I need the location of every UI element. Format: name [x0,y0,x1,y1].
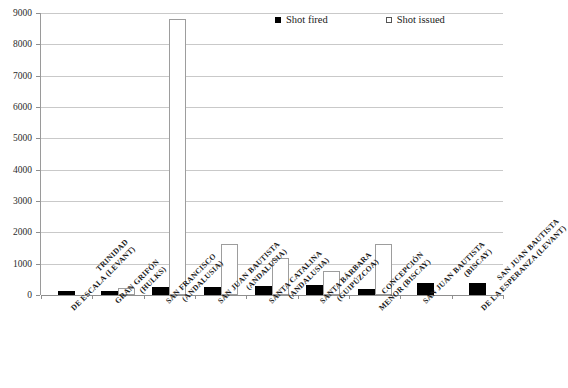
legend-label: Shot issued [397,14,445,25]
y-axis-tick-mark [36,138,40,139]
y-axis-tick-mark [36,264,40,265]
bar-shot-fired [204,287,221,295]
y-axis-tick-label: 9000 [13,8,32,18]
y-axis-tick-label: 0 [27,290,32,300]
x-axis-tick-mark [503,295,504,299]
bar-group [298,13,349,295]
y-axis-labels: 0100020003000400050006000700080009000 [0,13,36,295]
y-axis-tick-mark [36,295,40,296]
y-axis-tick-mark [36,170,40,171]
x-axis-labels: TRINIDADDE ESCALA (Levant)GRAN GRIFÓN(Hu… [40,299,502,388]
bar-group [400,13,451,295]
open-square-icon [386,17,392,23]
y-axis-tick-label: 6000 [13,102,32,112]
y-axis-tick-mark [36,76,40,77]
y-axis-tick-label: 3000 [13,196,32,206]
y-axis-tick-label: 5000 [13,133,32,143]
y-axis-tick-mark [36,232,40,233]
y-axis-tick-label: 1000 [13,259,32,269]
y-axis-tick-mark [36,13,40,14]
legend-item-shot-fired: Shot fired [275,14,328,25]
bar-shot-fired [255,286,272,295]
bar-shot-issued [169,19,186,295]
bar-shot-fired [101,291,118,295]
bar-group [349,13,400,295]
chart-legend: Shot firedShot issued [275,14,445,25]
bar-shot-fired [358,289,375,295]
y-axis-tick-mark [36,107,40,108]
bar-group [144,13,195,295]
y-axis-tick-mark [36,44,40,45]
y-axis-tick-label: 8000 [13,39,32,49]
legend-label: Shot fired [286,14,328,25]
legend-item-shot-issued: Shot issued [386,14,445,25]
filled-square-icon [275,17,281,23]
y-axis-tick-label: 2000 [13,227,32,237]
bar-shot-fired [152,287,169,295]
bar-shot-fired [306,285,323,295]
y-axis-tick-label: 4000 [13,165,32,175]
y-axis-tick-label: 7000 [13,71,32,81]
y-axis-tick-mark [36,201,40,202]
bar-group [195,13,246,295]
bar-group [41,13,92,295]
